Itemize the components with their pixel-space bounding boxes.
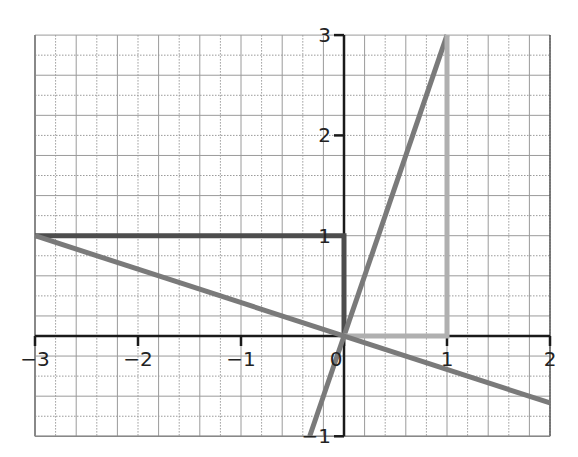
y-tick-label: 1 bbox=[318, 224, 331, 248]
chart-canvas: −3−2−1012−1123 bbox=[0, 0, 578, 457]
y-tick-label: −1 bbox=[302, 424, 331, 448]
x-tick-label: −2 bbox=[123, 347, 152, 371]
series-line-y-equals-neg-x-over-3 bbox=[35, 236, 550, 403]
x-tick-label: 0 bbox=[330, 347, 343, 371]
x-tick-label: 2 bbox=[544, 347, 557, 371]
x-tick-label: −1 bbox=[226, 347, 255, 371]
y-tick-label: 3 bbox=[318, 23, 331, 47]
x-tick-label: 1 bbox=[441, 347, 454, 371]
y-tick-label: 2 bbox=[318, 123, 331, 147]
x-tick-label: −3 bbox=[20, 347, 49, 371]
